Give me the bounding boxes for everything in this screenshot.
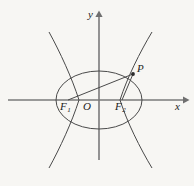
conics-drawing: [0, 0, 194, 186]
geometry-figure: y x O P F1 F2: [0, 0, 194, 186]
focus-f1-letter: F: [60, 100, 67, 112]
x-axis-label: x: [175, 101, 180, 112]
x-axis-arrowhead: [183, 96, 190, 103]
origin-label: O: [83, 101, 91, 112]
y-axis-label: y: [88, 9, 93, 20]
focus-f2-label: F2: [115, 101, 126, 114]
focus-f2-letter: F: [115, 100, 122, 112]
focus-f2-subscript: 2: [122, 106, 126, 114]
point-p-marker: [131, 72, 135, 76]
y-axis-arrowhead: [95, 11, 102, 18]
point-p-label: P: [137, 63, 144, 74]
focus-f1-subscript: 1: [67, 106, 71, 114]
focus-f1-label: F1: [60, 101, 71, 114]
